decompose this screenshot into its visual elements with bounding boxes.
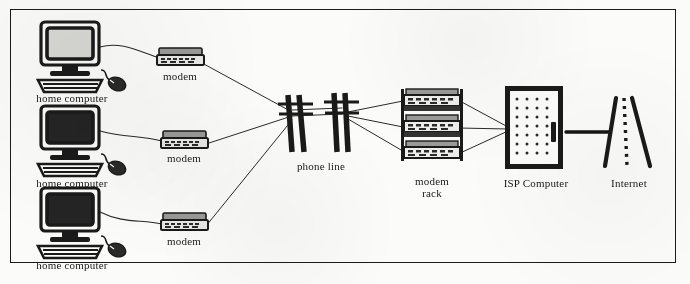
label-internet: Internet	[594, 177, 664, 190]
label-home-computer-3: home computer	[10, 259, 134, 272]
label-home-computer-1: home computer	[10, 92, 134, 105]
label-modem-rack: modem rack	[397, 176, 467, 199]
label-modem-3: modem	[154, 235, 214, 248]
label-phone-line: phone line	[286, 160, 356, 173]
road-icon[interactable]	[605, 98, 650, 166]
icons-layer	[0, 0, 690, 284]
diagram-canvas: home computer home computer home compute…	[0, 0, 690, 284]
desktop-computer-icon[interactable]	[38, 188, 128, 259]
modem-icon[interactable]	[161, 131, 208, 148]
label-home-computer-2: home computer	[10, 177, 134, 190]
modem-icon[interactable]	[157, 48, 204, 65]
label-isp-computer: ISP Computer	[488, 177, 584, 190]
desktop-computer-icon[interactable]	[38, 22, 128, 93]
label-modem-2: modem	[154, 152, 214, 165]
server-cabinet-icon[interactable]	[505, 86, 563, 169]
label-modem-1: modem	[150, 70, 210, 83]
modem-rack-icon[interactable]	[401, 89, 463, 161]
desktop-computer-icon[interactable]	[38, 106, 128, 177]
label-modem-rack-line2: rack	[397, 188, 467, 200]
modem-icon[interactable]	[161, 213, 208, 230]
label-modem-rack-line1: modem	[397, 176, 467, 188]
telephone-pole-icon[interactable]	[278, 93, 359, 152]
